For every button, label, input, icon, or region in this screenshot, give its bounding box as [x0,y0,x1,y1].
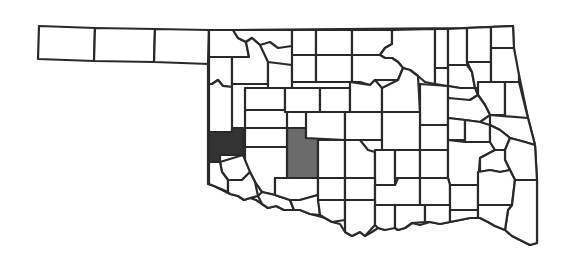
county-adair [505,82,528,118]
county-cimarron [38,26,95,61]
county-seminole [395,150,420,178]
county-carter [345,200,375,236]
county-hughes [420,150,448,178]
county-creek [420,84,448,125]
panhandle [38,26,209,64]
county-kingfisher [320,88,350,112]
county-texas [94,28,155,62]
county-garvin [345,178,375,200]
county-nowata [448,28,467,65]
county-marshall [425,205,450,224]
county-okfuskee [420,125,448,150]
county-bryan [450,210,478,222]
oklahoma-county-map: Oklahoma county distribution map [0,0,567,270]
county-atoka [450,185,478,210]
county-johnston [395,205,425,230]
county-pottawatomie [375,150,395,185]
county-garfield [292,55,316,82]
county-beaver [154,29,209,64]
county-pushmataha [478,170,515,205]
county-blaine [285,88,320,112]
county-canadian [306,112,345,140]
county-craig [467,27,491,62]
county-noble [316,55,352,82]
county-grant [316,30,352,55]
county-delaware [491,48,519,82]
county-lincoln [382,112,420,150]
county-alfalfa [292,30,316,55]
county-mcclain [318,178,345,200]
county-grady [318,140,345,178]
county-cleveland [345,140,375,178]
county-washita [245,110,287,128]
county-okmulgee [448,118,465,140]
county-major [268,62,292,88]
county-mcintosh [465,120,490,142]
county-dewey [245,88,285,110]
county-ottawa [491,26,514,48]
county-washington [435,29,448,68]
county-stephens [318,200,345,222]
county-roger-mills [209,80,232,132]
county-oklahoma [345,112,382,140]
map-svg [0,0,567,270]
county-murray [375,205,395,230]
county-custer [245,128,287,147]
county-tulsa [435,68,448,86]
county-coal [420,178,450,205]
county-logan [350,80,382,112]
